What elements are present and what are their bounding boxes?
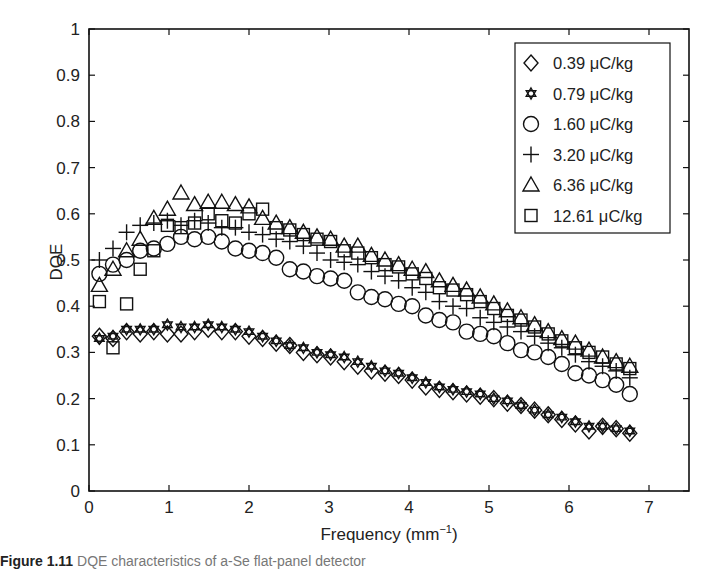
circle-marker (473, 326, 488, 341)
x-tick-label: 1 (164, 498, 173, 517)
data-point (243, 208, 255, 220)
y-tick-label: 0.7 (56, 159, 80, 178)
data-point (486, 329, 501, 344)
data-point (214, 194, 230, 208)
data-point (255, 246, 270, 261)
data-point (160, 326, 174, 342)
circle-marker (527, 345, 542, 360)
data-point (146, 241, 161, 256)
circle-marker (446, 315, 461, 330)
legend: 0.39 μC/kg0.79 μC/kg1.60 μC/kg3.20 μC/kg… (515, 43, 670, 233)
x-tick-label: 6 (564, 498, 573, 517)
circle-marker (242, 243, 257, 258)
data-point (378, 292, 393, 307)
data-point (472, 310, 488, 326)
circle-marker (554, 356, 569, 371)
data-point (163, 319, 173, 330)
y-tick-label: 0.2 (56, 390, 80, 409)
legend-label: 3.20 μC/kg (553, 146, 633, 164)
data-point (269, 250, 284, 265)
data-point (595, 373, 610, 388)
circle-marker (486, 329, 501, 344)
y-axis-label: DQE (47, 244, 66, 281)
data-point (176, 321, 186, 332)
legend-label: 6.36 μC/kg (553, 176, 633, 194)
data-point (296, 264, 311, 279)
data-point (462, 386, 472, 397)
data-point (108, 331, 118, 342)
data-point (473, 326, 488, 341)
circle-marker (214, 234, 229, 249)
data-point (228, 241, 243, 256)
y-tick-label: 0.3 (56, 343, 80, 362)
circle-marker (514, 343, 529, 358)
y-tick-label: 1 (71, 20, 80, 39)
data-point (527, 345, 542, 360)
square-marker (243, 208, 255, 220)
data-point (214, 234, 229, 249)
data-point (92, 266, 107, 281)
data-point (258, 331, 268, 342)
data-point (119, 224, 135, 240)
circle-marker (255, 246, 270, 261)
data-point (571, 416, 581, 427)
square-marker (93, 296, 105, 308)
data-point (134, 263, 146, 275)
circle-marker (391, 296, 406, 311)
data-point (93, 296, 105, 308)
circle-marker (541, 350, 556, 365)
circle-marker (459, 324, 474, 339)
dqe-chart: 0123456700.10.20.30.40.50.60.70.80.91 0.… (0, 0, 713, 550)
data-point (241, 224, 257, 240)
data-point (174, 326, 188, 342)
data-point (446, 315, 461, 330)
circle-marker (92, 266, 107, 281)
circle-marker (378, 292, 393, 307)
y-tick-label: 0 (71, 482, 80, 501)
data-point (622, 386, 637, 401)
data-point (200, 194, 216, 208)
data-point (405, 299, 420, 314)
data-point (337, 273, 352, 288)
y-tick-label: 0.1 (56, 436, 80, 455)
data-point (309, 245, 325, 261)
data-point (435, 382, 445, 393)
data-point (557, 412, 567, 423)
data-point (418, 308, 433, 323)
circle-marker (432, 313, 447, 328)
data-point (242, 243, 257, 258)
data-point (95, 333, 105, 344)
circle-marker (119, 253, 134, 268)
data-point (503, 395, 513, 406)
data-point (173, 185, 189, 199)
circle-marker (310, 269, 325, 284)
data-point (146, 215, 162, 231)
data-point (119, 253, 134, 268)
legend-label: 0.79 μC/kg (553, 85, 633, 103)
caption-text: DQE characteristics of a-Se flat-panel d… (77, 553, 366, 569)
data-point (326, 349, 336, 360)
data-point (149, 324, 159, 335)
data-point (609, 377, 624, 392)
data-point (391, 296, 406, 311)
data-point (312, 347, 322, 358)
data-point (445, 298, 461, 314)
circle-marker (187, 232, 202, 247)
data-point (282, 262, 297, 277)
circle-marker (609, 377, 624, 392)
data-point (350, 285, 365, 300)
data-point (420, 272, 432, 284)
triangle-marker (214, 194, 230, 208)
x-tick-label: 2 (244, 498, 253, 517)
legend-label: 1.60 μC/kg (553, 115, 633, 133)
x-tick-label: 0 (84, 498, 93, 517)
data-point (404, 280, 420, 296)
figure-caption: Figure 1.11 DQE characteristics of a-Se … (0, 553, 713, 569)
figure-number: Figure 1.11 (0, 553, 73, 569)
data-point (160, 236, 175, 251)
y-tick-label: 0.6 (56, 205, 80, 224)
x-tick-label: 5 (484, 498, 493, 517)
circle-marker (350, 285, 365, 300)
diamond-marker (174, 326, 188, 342)
x-tick-label: 7 (644, 498, 653, 517)
